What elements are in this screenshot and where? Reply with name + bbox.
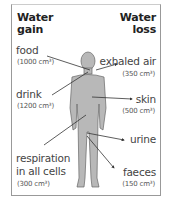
loss-faeces-amount: (150 cm³) — [122, 180, 155, 188]
gain-drink-label: drink — [16, 88, 42, 100]
gain-food-label: food — [16, 44, 38, 56]
gain-respiration-amount: (300 cm³) — [17, 180, 50, 188]
loss-skin-amount: (500 cm³) — [122, 107, 155, 115]
loss-exhaled-air-amount: (350 cm³) — [122, 70, 155, 78]
loss-skin-label: skin — [136, 93, 156, 105]
gain-respiration-label: respirationin all cells — [16, 152, 70, 178]
loss-faeces-label: faeces — [123, 166, 156, 178]
gain-drink-amount: (1200 cm³) — [17, 102, 54, 110]
water-gain-heading: Watergain — [17, 12, 53, 36]
loss-exhaled-air-label: exhaled air — [100, 55, 156, 67]
water-loss-heading: Waterloss — [120, 12, 156, 36]
loss-urine-label: urine — [130, 133, 156, 145]
gain-food-amount: (1000 cm³) — [17, 58, 54, 66]
